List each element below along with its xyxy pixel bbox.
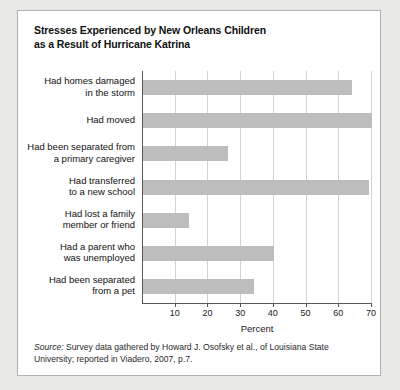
bar bbox=[143, 146, 228, 161]
tick-mark-20 bbox=[207, 303, 208, 307]
category-label-line: a primary caregiver bbox=[27, 153, 135, 165]
category-label-line: was unemployed bbox=[60, 252, 135, 264]
x-tick-label-50: 50 bbox=[301, 308, 311, 318]
bar bbox=[143, 113, 372, 128]
category-label-line: in the storm bbox=[44, 87, 135, 99]
category-label: Had homes damagedin the storm bbox=[44, 75, 135, 98]
category-label-line: member or friend bbox=[63, 219, 135, 231]
bar bbox=[143, 213, 189, 228]
category-label-line: to a new school bbox=[69, 186, 135, 198]
x-tick-label-20: 20 bbox=[202, 308, 212, 318]
source-note: Source: Survey data gathered by Howard J… bbox=[34, 341, 359, 365]
bar bbox=[143, 80, 352, 95]
chart-title-line-1: Stresses Experienced by New Orleans Chil… bbox=[34, 23, 364, 37]
tick-mark-50 bbox=[306, 303, 307, 307]
category-label: Had transferredto a new school bbox=[69, 175, 135, 198]
category-label: Had been separatedfrom a pet bbox=[49, 274, 135, 297]
x-tick-label-10: 10 bbox=[170, 308, 180, 318]
x-tick-label-40: 40 bbox=[268, 308, 278, 318]
bar bbox=[143, 246, 274, 261]
category-label-line: from a pet bbox=[49, 285, 135, 297]
x-tick-label-70: 70 bbox=[366, 308, 376, 318]
category-label-line: Had transferred bbox=[69, 175, 135, 187]
chart-title-line-2: as a Result of Hurricane Katrina bbox=[34, 37, 364, 51]
bar bbox=[143, 279, 254, 294]
tick-mark-40 bbox=[273, 303, 274, 307]
category-label-line: Had been separated bbox=[49, 274, 135, 286]
plot-area: Had homes damagedin the stormHad movedHa… bbox=[142, 71, 371, 303]
x-axis-label: Percent bbox=[241, 323, 274, 334]
tick-mark-10 bbox=[175, 303, 176, 307]
tick-mark-60 bbox=[338, 303, 339, 307]
tick-mark-30 bbox=[240, 303, 241, 307]
x-tick-label-60: 60 bbox=[333, 308, 343, 318]
category-label: Had lost a familymember or friend bbox=[63, 208, 135, 231]
source-label: Source: bbox=[34, 342, 64, 352]
x-tick-label-30: 30 bbox=[235, 308, 245, 318]
category-label-line: Had lost a family bbox=[63, 208, 135, 220]
source-text: Survey data gathered by Howard J. Osofsk… bbox=[34, 342, 329, 364]
category-label: Had moved bbox=[86, 114, 135, 126]
category-label-line: Had homes damaged bbox=[44, 75, 135, 87]
category-label: Had been separated froma primary caregiv… bbox=[27, 141, 135, 164]
tick-mark-70 bbox=[371, 303, 372, 307]
category-label-line: Had a parent who bbox=[60, 241, 135, 253]
category-label-line: Had moved bbox=[86, 114, 135, 126]
category-label-line: Had been separated from bbox=[27, 141, 135, 153]
category-label: Had a parent whowas unemployed bbox=[60, 241, 135, 264]
figure-panel: Stresses Experienced by New Orleans Chil… bbox=[17, 10, 381, 376]
bar bbox=[143, 180, 369, 195]
chart-title: Stresses Experienced by New Orleans Chil… bbox=[34, 23, 364, 51]
gridline-70 bbox=[371, 71, 372, 303]
